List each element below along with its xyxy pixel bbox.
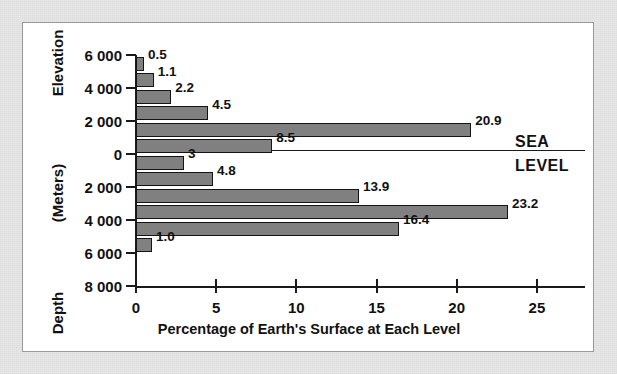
x-axis-title: Percentage of Earth's Surface at Each Le… — [23, 321, 595, 337]
y-tick-mark — [126, 87, 136, 89]
bar — [136, 57, 144, 71]
y-tick-label: 4 000 — [84, 81, 122, 96]
y-tick-label: 6 000 — [84, 48, 122, 63]
bar-value-label: 2.2 — [175, 81, 194, 95]
x-tick-label: 0 — [111, 300, 161, 315]
bar-value-label: 1.0 — [156, 230, 175, 244]
bar-value-label: 0.5 — [148, 48, 167, 62]
chart-panel: Elevation (Meters) Depth 6 0004 0002 000… — [22, 22, 594, 352]
bar — [136, 139, 272, 153]
plot-area: Elevation (Meters) Depth 6 0004 0002 000… — [23, 23, 595, 353]
x-tick-mark — [215, 279, 217, 293]
bar — [136, 205, 508, 219]
y-tick-label: 8 000 — [84, 279, 122, 294]
x-tick-label: 15 — [352, 300, 402, 315]
annotation-level: LEVEL — [515, 157, 569, 175]
bar — [136, 123, 471, 137]
x-tick-mark — [456, 279, 458, 293]
bar-value-label: 8.5 — [276, 131, 295, 145]
annotation-sea: SEA — [515, 133, 549, 151]
y-tick-label: 6 000 — [84, 246, 122, 261]
y-tick-label: 2 000 — [84, 180, 122, 195]
bar — [136, 73, 154, 87]
bar-value-label: 4.8 — [217, 164, 236, 178]
y-tick-label: 2 000 — [84, 114, 122, 129]
y-tick-mark — [126, 252, 136, 254]
bar — [136, 238, 152, 252]
bar-value-label: 3 — [188, 147, 196, 161]
x-tick-mark — [295, 279, 297, 293]
bar-value-label: 13.9 — [363, 180, 389, 194]
bar-value-label: 1.1 — [158, 65, 177, 79]
y-tick-mark — [126, 186, 136, 188]
bar — [136, 106, 208, 120]
x-axis-line — [135, 286, 585, 288]
bar — [136, 90, 171, 104]
y-tick-label: 4 000 — [84, 213, 122, 228]
x-tick-mark — [536, 279, 538, 293]
bar-value-label: 4.5 — [212, 98, 231, 112]
bar — [136, 172, 213, 186]
bar — [136, 222, 399, 236]
y-tick-mark — [126, 153, 136, 155]
bar-value-label: 16.4 — [403, 213, 429, 227]
x-tick-label: 10 — [271, 300, 321, 315]
x-tick-label: 20 — [432, 300, 482, 315]
y-tick-mark — [126, 120, 136, 122]
x-tick-mark — [376, 279, 378, 293]
bar-value-label: 23.2 — [512, 197, 538, 211]
x-tick-label: 5 — [191, 300, 241, 315]
y-tick-mark — [126, 54, 136, 56]
y-tick-label: 0 — [114, 147, 122, 162]
y-axis-title-depth: Depth — [49, 213, 66, 374]
bar — [136, 156, 184, 170]
bar — [136, 189, 359, 203]
x-tick-label: 25 — [512, 300, 562, 315]
bar-value-label: 20.9 — [475, 114, 501, 128]
x-tick-mark — [135, 279, 137, 293]
y-tick-mark — [126, 219, 136, 221]
